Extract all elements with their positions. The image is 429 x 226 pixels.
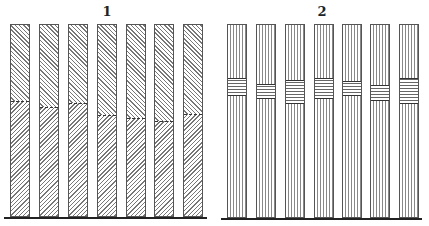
panel-1-bar <box>183 24 203 217</box>
vertical-stripes <box>257 25 275 218</box>
divider-line <box>127 118 145 119</box>
panel-1-bar <box>126 24 146 217</box>
horizontal-band <box>228 78 246 96</box>
panel-label-1: 1 <box>102 4 111 19</box>
upper-segment <box>155 25 173 121</box>
panel-2-bar <box>256 24 276 218</box>
vertical-stripes <box>315 25 333 218</box>
panel-1-bar <box>10 24 30 217</box>
upper-segment <box>40 25 58 107</box>
lower-segment <box>127 118 145 217</box>
upper-segment <box>98 25 116 115</box>
divider-line <box>11 101 29 102</box>
divider-line <box>40 107 58 108</box>
vertical-stripes <box>286 25 304 218</box>
panel-1-bar <box>39 24 59 217</box>
lower-segment <box>11 101 29 217</box>
panel-2-bar <box>342 24 362 218</box>
panel-2-bar <box>285 24 305 218</box>
horizontal-band <box>400 78 418 104</box>
lower-segment <box>155 121 173 217</box>
horizontal-band <box>315 78 333 99</box>
divider-line <box>69 103 87 104</box>
lower-segment <box>184 114 202 217</box>
lower-segment <box>40 107 58 217</box>
upper-segment <box>69 25 87 103</box>
divider-line <box>98 115 116 116</box>
upper-segment <box>11 25 29 101</box>
panel-2-bar <box>227 24 247 218</box>
upper-segment <box>127 25 145 118</box>
upper-segment <box>184 25 202 114</box>
panel-1-bar <box>154 24 174 217</box>
panel-2-bar <box>370 24 390 218</box>
panel-2-bar <box>399 24 419 218</box>
horizontal-band <box>343 81 361 96</box>
vertical-stripes <box>371 25 389 218</box>
horizontal-band <box>257 84 275 99</box>
divider-line <box>184 114 202 115</box>
panel-2-bar <box>314 24 334 218</box>
vertical-stripes <box>400 25 418 218</box>
baseline-2 <box>221 218 422 220</box>
vertical-stripes <box>228 25 246 218</box>
panel-1-bar <box>97 24 117 217</box>
lower-segment <box>69 103 87 217</box>
divider-line <box>155 121 173 122</box>
horizontal-band <box>286 80 304 104</box>
panel-1-bar <box>68 24 88 217</box>
lower-segment <box>98 115 116 217</box>
panel-label-2: 2 <box>317 4 326 19</box>
horizontal-band <box>371 85 389 101</box>
vertical-stripes <box>343 25 361 218</box>
baseline-1 <box>4 217 207 219</box>
